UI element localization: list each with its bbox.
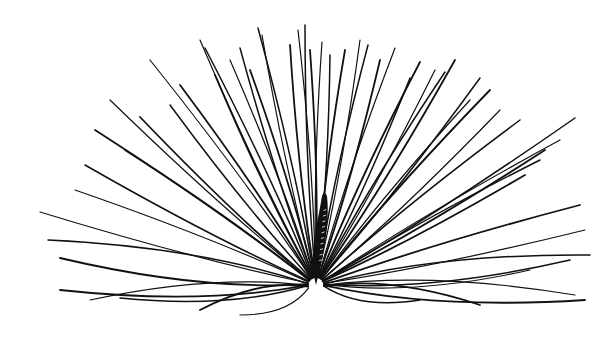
bristle — [240, 288, 309, 315]
seed-pappus-illustration — [0, 0, 615, 344]
bristle — [205, 48, 313, 278]
bristle — [150, 60, 311, 279]
bristle — [319, 62, 420, 278]
bristle — [240, 48, 314, 277]
bristle — [125, 150, 310, 280]
bristle — [48, 240, 308, 284]
illustration-canvas — [0, 0, 615, 344]
bristle — [120, 286, 308, 302]
bristle — [200, 40, 313, 278]
